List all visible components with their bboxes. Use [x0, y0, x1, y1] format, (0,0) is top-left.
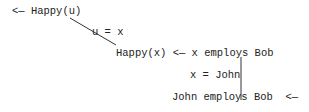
fact-clause: John employs Bob <—: [172, 91, 298, 103]
rule-clause: Happy(x) <— x employs Bob: [116, 47, 274, 59]
goal-clause: <— Happy(u): [12, 5, 81, 17]
unifier-x-john: x = John: [190, 69, 240, 81]
unifier-u-x: u = x: [92, 26, 124, 38]
